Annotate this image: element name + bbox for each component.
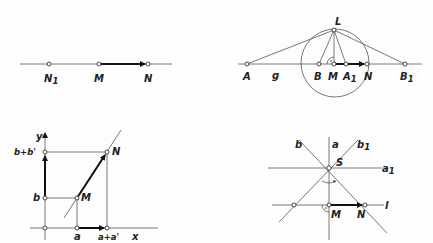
label-y: y: [36, 131, 43, 142]
label-n: N: [144, 73, 153, 84]
label-n: N: [364, 71, 373, 82]
point-n1: [47, 62, 51, 66]
label-b: B: [314, 71, 322, 82]
point-a: [245, 62, 249, 66]
point-a: [75, 226, 79, 230]
label-s: S: [336, 157, 343, 168]
label-m: M: [81, 192, 91, 203]
point-n: [105, 150, 109, 154]
right-angle-dot: [330, 60, 332, 62]
line-b: [299, 140, 387, 233]
point-b-plus-b-prime: [43, 150, 47, 154]
point-s: [327, 166, 331, 170]
label-a: a: [332, 139, 339, 150]
label-a-plus-a-prime: a+a': [98, 232, 119, 242]
point-m: [327, 203, 331, 207]
point-n: [146, 62, 150, 66]
segment-lb1: [334, 30, 405, 64]
label-n: N: [357, 209, 366, 220]
label-m: M: [331, 209, 341, 220]
figure-line-translation: N1 M N: [20, 62, 172, 86]
label-b: b: [33, 192, 40, 203]
point-b: [43, 196, 47, 200]
point-l: [332, 28, 336, 32]
point-m: [332, 62, 336, 66]
label-n1: N1: [44, 73, 58, 86]
label-g: g: [272, 70, 279, 81]
label-n: N: [112, 146, 121, 157]
point-n: [363, 203, 367, 207]
label-l: L: [335, 16, 341, 27]
label-a: a: [74, 231, 81, 242]
point-b1: [403, 62, 407, 66]
point-a-plus-a-prime: [105, 226, 109, 230]
point-b: [317, 62, 321, 66]
point-a1: [344, 62, 348, 66]
label-a1: a1: [382, 163, 395, 176]
point-left: [292, 203, 296, 207]
point-origin: [43, 226, 47, 230]
line-b1: [279, 140, 358, 222]
point-m: [75, 196, 79, 200]
label-b1: B1: [400, 71, 414, 84]
figure-coordinate-translation: y x b+b' b a a+a' M N: [14, 130, 158, 242]
figure-circle-construction: A g B M A1 N B1 L: [238, 16, 422, 97]
figure-reflections: b a b1 S a1 l M N: [268, 137, 395, 240]
label-b1: b1: [357, 139, 370, 152]
point-n: [365, 62, 369, 66]
point-m: [97, 62, 101, 66]
label-x: x: [131, 231, 139, 242]
label-a: A: [242, 71, 251, 82]
label-b: b: [295, 139, 302, 150]
label-m: M: [328, 71, 338, 82]
right-angle-dot: [325, 207, 327, 209]
label-l: l: [385, 200, 389, 211]
label-b-plus-b-prime: b+b': [14, 147, 36, 157]
label-a1: A1: [342, 71, 357, 84]
label-m: M: [94, 73, 104, 84]
geometry-diagram: N1 M N A g B M A1 N B1 L: [0, 0, 433, 243]
